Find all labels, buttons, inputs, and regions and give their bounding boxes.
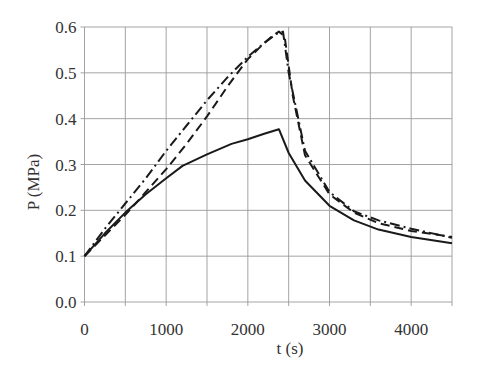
y-tick-label: 0.2 bbox=[55, 201, 76, 220]
y-tick-label: 0.1 bbox=[55, 247, 76, 266]
y-tick-label: 0.3 bbox=[55, 156, 76, 175]
y-tick-label: 0.4 bbox=[55, 110, 77, 129]
y-tick-label: 0.0 bbox=[55, 293, 76, 312]
data-series bbox=[85, 32, 453, 257]
x-axis-label: t (s) bbox=[277, 339, 304, 358]
y-tick-labels: 0.00.10.20.30.40.50.6 bbox=[55, 18, 77, 312]
series-line-dashed bbox=[85, 32, 453, 257]
y-tick-label: 0.6 bbox=[55, 18, 76, 37]
x-tick-label: 3000 bbox=[313, 320, 347, 339]
x-tick-label: 2000 bbox=[231, 320, 265, 339]
y-tick-label: 0.5 bbox=[55, 64, 76, 83]
pressure-time-chart: 0.00.10.20.30.40.50.6 01000200030004000 … bbox=[0, 0, 481, 369]
x-tick-labels: 01000200030004000 bbox=[80, 320, 428, 339]
grid-lines bbox=[81, 27, 453, 306]
x-tick-label: 1000 bbox=[149, 320, 183, 339]
x-tick-label: 0 bbox=[80, 320, 89, 339]
x-tick-label: 4000 bbox=[394, 320, 428, 339]
series-line-dash-dot bbox=[85, 32, 453, 257]
y-axis-label: P (MPa) bbox=[24, 154, 43, 211]
series-line-solid bbox=[85, 129, 453, 256]
